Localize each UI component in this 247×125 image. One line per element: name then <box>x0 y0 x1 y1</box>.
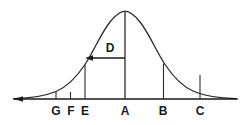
baseline-left-arrowhead <box>14 96 23 102</box>
axis-label-e: E <box>77 104 93 118</box>
axis-label-a: A <box>117 104 133 118</box>
bell-curve-figure: G F E A B C D <box>0 0 247 125</box>
axis-label-g: G <box>48 104 64 118</box>
measurement-arrow-d-head-icon <box>85 55 93 61</box>
axis-label-c: C <box>192 104 208 118</box>
measurement-label-d: D <box>102 41 118 55</box>
axis-label-b: B <box>155 104 171 118</box>
